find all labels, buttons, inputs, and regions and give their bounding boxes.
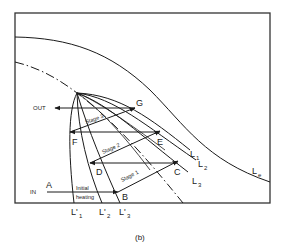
- point-E: E: [157, 137, 163, 147]
- svg-text:L: L: [192, 176, 197, 186]
- label-L3: L 3: [192, 176, 202, 188]
- figure-caption: (b): [135, 233, 145, 242]
- point-G: G: [136, 98, 143, 108]
- label-in: IN: [30, 189, 36, 195]
- point-A: A: [46, 180, 52, 190]
- point-D: D: [96, 167, 103, 177]
- stage-diagram: A B C D E F G IN OUT Initial heating Sta…: [0, 0, 283, 249]
- label-L2: L 2: [198, 159, 208, 171]
- svg-text:L': L': [71, 207, 78, 217]
- arrow-stage-3: [70, 108, 135, 132]
- label-out: OUT: [33, 105, 46, 111]
- point-C: C: [174, 167, 181, 177]
- svg-text:2: 2: [204, 165, 208, 171]
- svg-text:3: 3: [198, 182, 202, 188]
- svg-text:L': L': [119, 207, 126, 217]
- plot-frame: [15, 13, 270, 203]
- svg-text:L: L: [252, 166, 257, 176]
- label-L3-prime: L' 3: [119, 207, 131, 219]
- svg-text:L: L: [190, 149, 195, 159]
- svg-text:3: 3: [127, 213, 131, 219]
- svg-text:L: L: [198, 159, 203, 169]
- svg-text:2: 2: [107, 213, 111, 219]
- label-L2-prime: L' 2: [99, 207, 111, 219]
- svg-text:1: 1: [79, 213, 83, 219]
- svg-text:L': L': [99, 207, 106, 217]
- point-B: B: [122, 192, 128, 202]
- point-F: F: [72, 137, 78, 147]
- label-L1-prime: L' 1: [71, 207, 83, 219]
- label-stage-1: Stage 1: [120, 169, 140, 183]
- label-heating: heating: [76, 194, 94, 200]
- svg-text:e: e: [258, 172, 262, 178]
- label-initial: Initial: [76, 185, 89, 191]
